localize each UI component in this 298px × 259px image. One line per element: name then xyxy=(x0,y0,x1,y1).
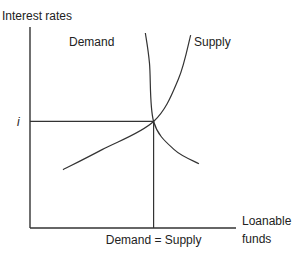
y-tick-label-i: i xyxy=(17,115,20,129)
supply-curve-label: Supply xyxy=(194,35,231,49)
supply-curve xyxy=(63,35,191,170)
x-tick-label-equilibrium: Demand = Supply xyxy=(106,233,202,247)
demand-curve-label: Demand xyxy=(69,35,114,49)
y-axis-label: Interest rates xyxy=(2,9,72,23)
x-axis-label-line1: Loanable xyxy=(242,214,292,228)
x-axis-label-line2: funds xyxy=(242,232,271,246)
chart: Interest rates i Demand = Supply Loanabl… xyxy=(0,0,298,259)
